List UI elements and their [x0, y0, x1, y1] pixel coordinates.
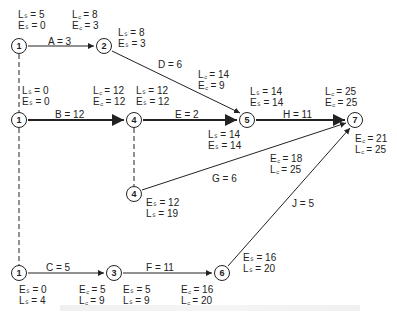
a-end-lf: L꜀ = 8 [72, 9, 98, 20]
j-start-ls: Lₛ = 20 [243, 263, 275, 274]
event-node-1-top: 1 [11, 38, 27, 54]
event-node-4: 4 [126, 112, 142, 128]
b-start-ls: Lₛ = 0 [22, 85, 49, 96]
activity-b-label: B = 12 [55, 109, 84, 120]
e-start-es: Eₛ = 12 [136, 96, 169, 107]
g-start-ls: Lₛ = 19 [146, 208, 178, 219]
event-node-6: 6 [214, 265, 230, 281]
activity-c-label: C = 5 [46, 262, 70, 273]
activity-a-label: A = 3 [48, 36, 71, 47]
h-start-ls: Lₛ = 14 [250, 86, 282, 97]
b-end-lf: L꜀ = 12 [93, 85, 124, 96]
h-end-lf: L꜀ = 25 [325, 86, 356, 97]
g-end-ef: E꜀ = 18 [270, 153, 302, 164]
h-end-ef: E꜀ = 25 [325, 97, 357, 108]
a-end-ef: E꜀ = 3 [72, 20, 99, 31]
b-end-ef: E꜀ = 12 [93, 96, 125, 107]
event-node-7: 7 [347, 112, 363, 128]
activity-d-label: D = 6 [158, 59, 182, 70]
event-node-2: 2 [96, 38, 112, 54]
d-start-ls: Lₛ = 8 [118, 27, 145, 38]
d-end-ef: E꜀ = 9 [198, 80, 225, 91]
activity-j-label: J = 5 [292, 198, 314, 209]
c-start-ls: Lₛ = 4 [19, 295, 46, 306]
e-end-es: Eₛ = 14 [208, 140, 241, 151]
f-start-es: Eₛ = 5 [123, 284, 151, 295]
event-node-4-lower: 4 [126, 186, 142, 202]
event-node-1-mid: 1 [11, 112, 27, 128]
activity-h-label: H = 11 [283, 109, 312, 120]
faded-caption [60, 305, 360, 311]
f-end-ef: E꜀ = 16 [181, 284, 213, 295]
e-end-ls: Lₛ = 14 [208, 129, 240, 140]
d-start-es: Eₛ = 3 [118, 38, 146, 49]
h-start-es: Eₛ = 14 [250, 97, 283, 108]
d-end-lf: L꜀ = 14 [198, 69, 229, 80]
a-start-ls: Lₛ = 5 [18, 9, 45, 20]
event-node-1-bottom: 1 [11, 265, 27, 281]
a-start-es: Eₛ = 0 [18, 20, 46, 31]
event-node-5: 5 [239, 112, 255, 128]
activity-e-label: E = 2 [175, 109, 199, 120]
j-start-es: Eₛ = 16 [243, 252, 276, 263]
e-start-ls: Lₛ = 12 [136, 85, 168, 96]
c-start-es: Eₛ = 0 [19, 284, 47, 295]
g-start-es: Eₛ = 12 [146, 197, 179, 208]
activity-f-label: F = 11 [146, 262, 174, 273]
c-end-ef: E꜀ = 5 [79, 284, 106, 295]
activity-g-label: G = 6 [212, 173, 237, 184]
b-start-es: Eₛ = 0 [22, 96, 50, 107]
event-node-3: 3 [106, 265, 122, 281]
j-end-lf: L꜀ = 25 [355, 144, 386, 155]
g-end-lf: L꜀ = 25 [270, 164, 301, 175]
j-end-ef: E꜀ = 21 [355, 133, 387, 144]
